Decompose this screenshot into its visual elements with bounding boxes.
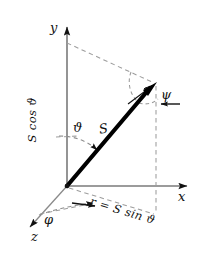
vertical-projection-label: S cos ϑ — [27, 84, 39, 156]
origin-point — [65, 184, 70, 189]
psi-arc — [129, 72, 139, 103]
vector-s-line — [67, 88, 150, 186]
vector-s-label: S — [98, 121, 109, 135]
dash-y-to-tip — [67, 43, 152, 82]
theta-arc — [59, 136, 97, 150]
psi-angle-label: ψ — [161, 88, 171, 101]
y-axis-label: y — [50, 21, 57, 34]
z-axis-label: z — [31, 230, 38, 243]
spherical-coordinate-diagram: y x z ϑ φ ψ S S cos ϑ r = S sin ϑ — [0, 0, 212, 256]
phi-angle-label: φ — [44, 213, 53, 226]
axis-lines — [30, 27, 187, 227]
x-axis-label: x — [178, 190, 185, 203]
theta-angle-label: ϑ — [73, 121, 82, 134]
